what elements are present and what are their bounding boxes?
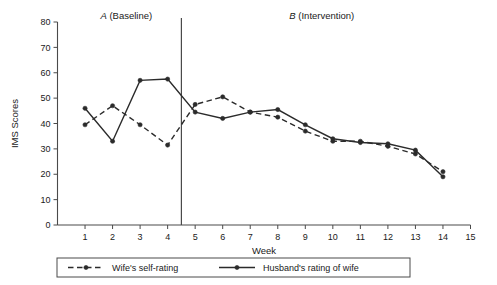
legend-marker [235, 265, 239, 269]
y-axis-title: IMS Scores [9, 99, 20, 148]
x-tick-label: 3 [138, 232, 143, 242]
data-point-marker [110, 104, 114, 108]
data-point-marker [413, 148, 417, 152]
phase-labels: A (Baseline)B (Intervention) [99, 10, 354, 21]
series-wife-self-rating [83, 95, 445, 174]
data-point-marker [221, 116, 225, 120]
data-point-marker [276, 115, 280, 119]
x-tick-label: 13 [410, 232, 420, 242]
data-point-marker [441, 175, 445, 179]
x-tick-label: 2 [110, 232, 115, 242]
phase-b-label: B (Intervention) [289, 10, 354, 21]
x-axis: 123456789101112131415 [58, 225, 476, 242]
data-point-marker [303, 129, 307, 133]
x-tick-label: 11 [356, 232, 365, 242]
chart-container: 01020304050607080 123456789101112131415 … [0, 0, 497, 285]
data-point-marker [166, 77, 170, 81]
x-tick-label: 6 [220, 232, 225, 242]
series-line [85, 79, 443, 177]
series-line [85, 97, 443, 172]
legend-item[interactable]: Husband's rating of wife [219, 263, 359, 273]
y-tick-label: 50 [40, 93, 50, 103]
data-point-marker [248, 110, 252, 114]
legend-label: Wife's self-rating [112, 263, 178, 273]
ims-scores-line-chart: 01020304050607080 123456789101112131415 … [0, 0, 497, 285]
x-axis-title: Week [252, 245, 276, 256]
y-tick-label: 10 [40, 195, 50, 205]
data-series [83, 77, 445, 179]
x-tick-label: 15 [465, 232, 475, 242]
legend-label: Husband's rating of wife [263, 263, 359, 273]
data-point-marker [166, 143, 170, 147]
data-point-marker [331, 137, 335, 141]
y-tick-label: 40 [40, 119, 50, 129]
legend: Wife's self-ratingHusband's rating of wi… [57, 258, 410, 277]
y-tick-label: 30 [40, 144, 50, 154]
data-point-marker [138, 123, 142, 127]
y-tick-label: 0 [45, 220, 50, 230]
y-axis: 01020304050607080 [40, 17, 57, 230]
x-tick-label: 9 [303, 232, 308, 242]
data-point-marker [83, 106, 87, 110]
x-tick-label: 7 [248, 232, 253, 242]
data-point-marker [441, 170, 445, 174]
data-point-marker [110, 139, 114, 143]
data-point-marker [83, 123, 87, 127]
y-tick-label: 80 [40, 17, 50, 27]
y-tick-label: 60 [40, 68, 50, 78]
x-tick-label: 10 [328, 232, 338, 242]
data-point-marker [193, 110, 197, 114]
x-tick-label: 14 [438, 232, 448, 242]
series-husband-rating-of-wife [83, 77, 445, 179]
data-point-marker [193, 102, 197, 106]
x-tick-label: 5 [193, 232, 198, 242]
x-tick-label: 12 [383, 232, 393, 242]
data-point-marker [358, 140, 362, 144]
phase-a-label: A (Baseline) [99, 10, 152, 21]
legend-marker [84, 265, 88, 269]
data-point-marker [138, 78, 142, 82]
legend-item[interactable]: Wife's self-rating [68, 263, 178, 273]
data-point-marker [303, 123, 307, 127]
x-tick-label: 4 [165, 232, 170, 242]
x-tick-label: 8 [275, 232, 280, 242]
data-point-marker [276, 107, 280, 111]
x-tick-label: 1 [83, 232, 88, 242]
y-tick-label: 20 [40, 169, 50, 179]
y-tick-label: 70 [40, 43, 50, 53]
data-point-marker [386, 142, 390, 146]
data-point-marker [221, 95, 225, 99]
